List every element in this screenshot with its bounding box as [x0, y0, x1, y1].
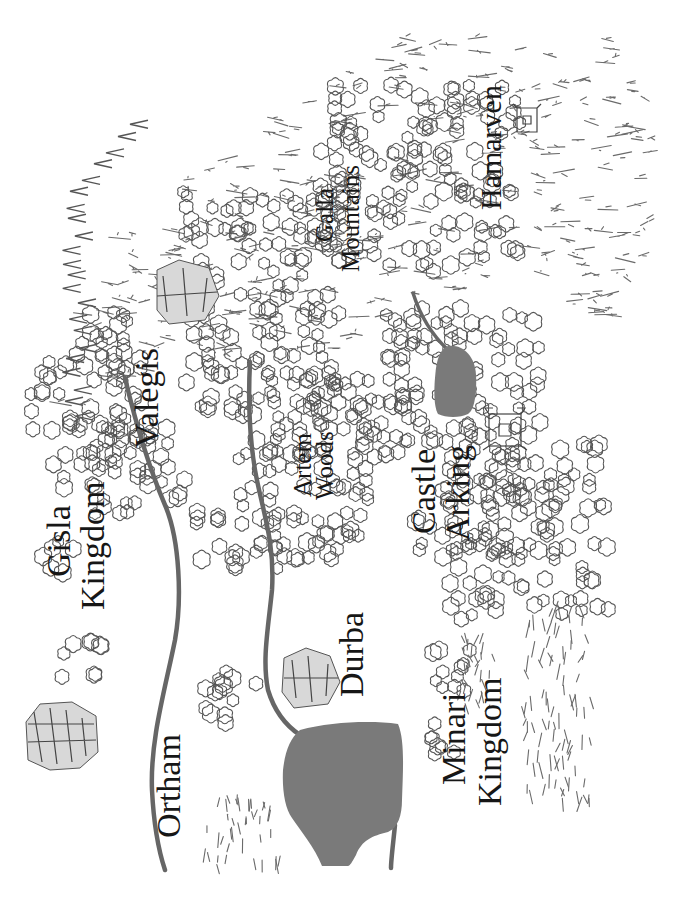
tree [490, 333, 503, 347]
mountain-stroke [627, 81, 635, 84]
mountain-stroke [133, 272, 140, 273]
hill-stroke [278, 856, 280, 866]
tree [219, 222, 231, 235]
mountain-stroke [231, 184, 240, 189]
mountain-stroke [399, 206, 407, 211]
mountain-stroke [409, 222, 427, 225]
mountain-stroke [635, 174, 647, 178]
tree [503, 342, 515, 355]
tree [360, 474, 373, 488]
mountain-stroke [346, 71, 353, 73]
hill-stroke [584, 707, 585, 718]
mountain-peak [63, 246, 81, 254]
tree [65, 635, 81, 652]
mountain-stroke [624, 275, 631, 282]
town-icon [513, 104, 541, 132]
tree [559, 539, 575, 557]
tree [58, 647, 70, 661]
tree [476, 220, 488, 233]
tree [266, 375, 277, 387]
tree [328, 101, 342, 116]
mountain-stroke [294, 276, 304, 279]
hill-stroke [540, 648, 545, 662]
mountain-stroke [290, 346, 310, 350]
tree [89, 668, 102, 682]
hill-stroke [553, 729, 554, 741]
hill-stroke [585, 635, 588, 643]
mountain-peak [94, 160, 112, 168]
mountain-stroke [615, 254, 635, 263]
tree [367, 426, 381, 442]
tree [234, 288, 246, 302]
hill-stroke [556, 626, 560, 638]
label-hamarven: Hamarven [474, 85, 507, 210]
arking-lake [434, 346, 476, 417]
mountain-stroke [585, 119, 599, 126]
tree [130, 461, 146, 478]
hill-stroke [551, 707, 554, 717]
tree [234, 488, 247, 502]
mountain-stroke [582, 273, 590, 276]
tree [275, 347, 287, 360]
mountain-stroke [627, 202, 646, 207]
hill-stroke [533, 615, 534, 630]
hill-stroke [530, 696, 531, 710]
label-castle: Castle [405, 449, 442, 534]
mountain-stroke [575, 247, 594, 250]
tree [583, 480, 596, 494]
label-durba: Durba [333, 612, 370, 697]
mountain-stroke [129, 250, 138, 258]
tree [236, 356, 248, 369]
mountain-stroke [160, 335, 175, 340]
hill-stroke [532, 641, 535, 657]
mountain-peak [82, 176, 100, 184]
hill-stroke [254, 810, 257, 817]
mountain-stroke [591, 273, 600, 276]
hill-stroke [590, 697, 594, 709]
mountain-stroke [154, 343, 164, 348]
hill-stroke [245, 819, 246, 825]
mountain-peak [68, 271, 86, 279]
label-valegis: Valegis [128, 348, 165, 448]
tree [464, 643, 477, 657]
tree [308, 535, 324, 553]
label-kingdom-minari: Kingdom [471, 678, 508, 806]
tree [374, 416, 388, 431]
hill-stroke [467, 639, 468, 650]
hill-stroke [562, 739, 565, 750]
mountain-peak [63, 260, 81, 268]
mountain-stroke [641, 221, 648, 230]
hill-stroke [254, 859, 256, 870]
tree [263, 213, 279, 231]
tree [46, 456, 62, 473]
mountain-stroke [532, 84, 540, 89]
tree [273, 411, 284, 423]
mountain-stroke [158, 321, 166, 323]
mountain-stroke [536, 181, 555, 183]
mountain-stroke [618, 233, 631, 235]
mountain-stroke [598, 163, 612, 170]
mountain-stroke [609, 235, 624, 238]
tree [474, 565, 491, 584]
hill-stroke [548, 721, 549, 729]
tree [552, 440, 569, 459]
label-gisla: Gisla [40, 505, 77, 577]
fantasy-map: Gisla Kingdom Ortham Valegis Galla Mount… [0, 0, 695, 904]
mountain-stroke [553, 101, 562, 105]
tree [517, 339, 534, 357]
hill-stroke [539, 763, 543, 779]
mountain-stroke [545, 223, 565, 227]
mountain-stroke [542, 115, 551, 118]
tree [485, 414, 500, 430]
walled-city-icon [282, 648, 340, 708]
tree [199, 336, 214, 353]
mountain-stroke [588, 308, 607, 311]
tree [177, 471, 193, 488]
hill-stroke [537, 751, 538, 763]
mountain-stroke [439, 43, 457, 46]
mountain-stroke [648, 136, 655, 140]
mountain-stroke [289, 126, 301, 129]
hill-stroke [584, 779, 585, 787]
tree [424, 194, 438, 210]
hill-stroke [475, 656, 478, 663]
